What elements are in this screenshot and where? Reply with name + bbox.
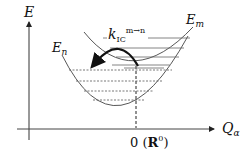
lower-state-label: En — [52, 41, 67, 54]
rate-constant-sup: m→n — [126, 26, 145, 35]
internal-conversion-arrow — [96, 49, 138, 66]
upper-state-label: Em — [186, 13, 204, 26]
x-axis-label: Qα — [222, 121, 240, 135]
y-axis-label: E — [24, 5, 34, 19]
lower-state-curve — [62, 36, 188, 106]
lower-state-levels — [69, 70, 172, 100]
rate-constant-sub: IC — [116, 35, 125, 44]
x-axis-label-main: Q — [222, 120, 233, 136]
upper-state-label-main: E — [186, 12, 196, 27]
origin-sup: 0 — [158, 134, 163, 143]
diagram-svg — [0, 0, 249, 154]
lower-state-label-main: E — [52, 40, 62, 55]
origin-label: 0 (R0) — [130, 136, 168, 149]
x-axis-label-sub: α — [233, 128, 239, 138]
origin-bold-r: R — [148, 135, 159, 150]
origin-close-paren: ) — [163, 135, 168, 150]
origin-zero: 0 — [130, 135, 138, 150]
rate-constant-label: kICm→n — [107, 27, 146, 41]
upper-state-label-sub: m — [196, 19, 205, 29]
diagram-canvas: E En Em kICm→n Qα 0 (R0) — [0, 0, 249, 154]
lower-state-label-sub: n — [62, 47, 68, 57]
